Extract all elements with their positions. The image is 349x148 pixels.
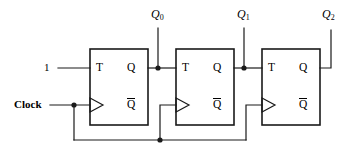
circuit-diagram-canvas: 1 Clock Q0 Q1 Q2 T Q Q T Q Q T Q Q (0, 0, 349, 148)
junction-q1-tap-dot (241, 65, 246, 70)
flipflop-1-qbar-pin-label: Q (213, 99, 221, 111)
logic1-input-label: 1 (44, 62, 50, 73)
flipflop-1-qbar-overline: Q (213, 99, 221, 111)
q2-output-label: Q2 (322, 8, 335, 20)
flipflop-1-t-pin-label: T (182, 62, 189, 74)
flipflop-0-clock-triangle-icon (90, 98, 103, 112)
q2-output-subscript: 2 (331, 13, 335, 22)
flipflop-1-q-pin-label: Q (213, 62, 221, 74)
q0-output-subscript: 0 (160, 13, 164, 22)
junction-clock-tap-dot (71, 102, 76, 107)
q0-output-label: Q0 (151, 8, 164, 20)
flipflop-2-t-pin-label: T (268, 62, 275, 74)
junction-clock-bus-dot (157, 137, 162, 142)
wire-q1-tap-down-to-bus (246, 105, 262, 140)
junction-q0-tap-dot (155, 65, 160, 70)
wire-q0-tap-down-to-bus (160, 105, 176, 140)
flipflop-2-q-pin-label: Q (299, 62, 307, 74)
q2-output-letter: Q (322, 7, 331, 21)
wire-ff2-q-to-q2 (320, 30, 331, 68)
flipflop-0-q-pin-label: Q (127, 62, 135, 74)
flipflop-2-qbar-overline: Q (299, 99, 307, 111)
circuit-schematic-svg (0, 0, 349, 148)
flipflop-0-t-pin-label: T (96, 62, 103, 74)
flipflop-2-qbar-pin-label: Q (299, 99, 307, 111)
clock-input-label: Clock (14, 99, 42, 110)
q1-output-letter: Q (237, 7, 246, 21)
flipflop-0-qbar-pin-label: Q (127, 99, 135, 111)
flipflop-2-clock-triangle-icon (262, 98, 275, 112)
flipflop-0-qbar-overline: Q (127, 99, 135, 111)
flipflop-1-clock-triangle-icon (176, 98, 189, 112)
q0-output-letter: Q (151, 7, 160, 21)
q1-output-subscript: 1 (246, 13, 250, 22)
q1-output-label: Q1 (237, 8, 250, 20)
